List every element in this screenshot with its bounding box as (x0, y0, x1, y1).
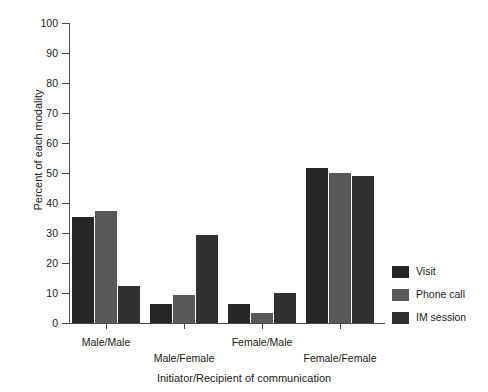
x-axis-group-label: Male/Female (154, 352, 215, 364)
bar (173, 295, 195, 324)
y-axis-label: Percent of each modality (32, 50, 44, 250)
bar (352, 176, 374, 323)
y-axis-tick (62, 143, 70, 144)
y-axis-tick (62, 83, 70, 84)
bar (329, 173, 351, 323)
bar (274, 293, 296, 323)
y-axis-tick (62, 53, 70, 54)
y-axis-tick-label: 100 (30, 23, 58, 24)
y-axis-tick (62, 293, 70, 294)
x-axis-label: Initiator/Recipient of communication (0, 372, 488, 384)
bar-chart-figure: Percent of each modality 010203040506070… (0, 0, 488, 392)
legend-label: IM session (416, 311, 466, 323)
y-axis-tick-label: 0 (30, 323, 58, 324)
x-axis-group-label: Male/Male (82, 336, 130, 348)
x-axis-tick (106, 324, 107, 329)
y-axis-tick-label: 90 (30, 53, 58, 54)
y-axis-tick-label: 60 (30, 143, 58, 144)
y-axis-tick (62, 23, 70, 24)
bar (251, 313, 273, 323)
y-axis-tick-label: 40 (30, 203, 58, 204)
x-axis-line (69, 323, 385, 324)
y-axis-tick-label: 50 (30, 173, 58, 174)
x-axis-tick (262, 324, 263, 329)
y-axis-tick (62, 233, 70, 234)
x-axis-tick (340, 324, 341, 329)
y-axis-tick (62, 203, 70, 204)
y-axis-tick (62, 113, 70, 114)
x-axis-tick (184, 324, 185, 329)
x-axis-group-label: Female/Female (304, 352, 377, 364)
x-axis-group-label: Female/Male (232, 336, 293, 348)
y-axis-tick-label: 70 (30, 113, 58, 114)
y-axis-tick (62, 263, 70, 264)
y-axis-tick-label: 20 (30, 263, 58, 264)
y-axis-tick (62, 173, 70, 174)
legend-label: Phone call (416, 288, 465, 300)
legend-label: Visit (416, 265, 436, 277)
legend-swatch (392, 312, 409, 324)
y-axis-tick-label: 80 (30, 83, 58, 84)
bar (118, 286, 140, 323)
bar (228, 304, 250, 324)
bar (95, 211, 117, 324)
bar (306, 168, 328, 323)
legend-swatch (392, 266, 409, 278)
y-axis-tick-label: 30 (30, 233, 58, 234)
y-axis-tick-label: 10 (30, 293, 58, 294)
legend-swatch (392, 289, 409, 301)
bar (196, 235, 218, 323)
bar (72, 217, 94, 323)
bar (150, 304, 172, 324)
